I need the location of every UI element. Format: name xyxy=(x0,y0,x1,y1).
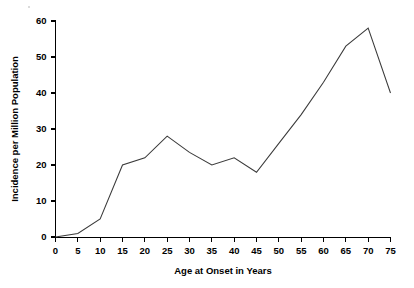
x-tick-label: 50 xyxy=(274,245,285,256)
x-tick-label: 10 xyxy=(95,245,106,256)
x-tick-label: 75 xyxy=(385,245,396,256)
incidence-data-line xyxy=(56,28,391,237)
chart-container: 0102030405060 05101520253035404550556065… xyxy=(0,0,414,288)
y-tick-label: 20 xyxy=(36,159,47,170)
line-chart: 0102030405060 05101520253035404550556065… xyxy=(0,0,414,288)
x-tick-label: 55 xyxy=(296,245,307,256)
x-tick-label: 70 xyxy=(363,245,374,256)
x-tick-label: 15 xyxy=(117,245,128,256)
x-axis-title: Age at Onset in Years xyxy=(174,265,272,276)
x-tick-label: 65 xyxy=(341,245,352,256)
y-tick-label: 10 xyxy=(36,195,47,206)
x-tick-label: 20 xyxy=(140,245,151,256)
x-tick-label: 0 xyxy=(53,245,58,256)
x-tick-label: 5 xyxy=(75,245,81,256)
x-axis-tick-labels: 051015202530354045505560657075 xyxy=(53,245,397,256)
y-axis: 0102030405060 xyxy=(36,15,56,242)
x-tick-label: 35 xyxy=(207,245,218,256)
x-tick-label: 60 xyxy=(318,245,329,256)
y-tick-label: 30 xyxy=(36,123,47,134)
x-tick-label: 30 xyxy=(184,245,195,256)
x-tick-label: 45 xyxy=(251,245,262,256)
x-axis: 051015202530354045505560657075 xyxy=(53,237,397,256)
x-tick-label: 25 xyxy=(162,245,173,256)
y-tick-label: 40 xyxy=(36,87,47,98)
y-axis-title: Incidence per Million Population xyxy=(9,56,20,202)
y-tick-label: 0 xyxy=(41,231,46,242)
y-axis-tick-marks xyxy=(51,21,56,237)
y-tick-label: 60 xyxy=(36,15,47,26)
y-axis-tick-labels: 0102030405060 xyxy=(36,15,47,242)
x-tick-label: 40 xyxy=(229,245,240,256)
y-tick-label: 50 xyxy=(36,51,47,62)
